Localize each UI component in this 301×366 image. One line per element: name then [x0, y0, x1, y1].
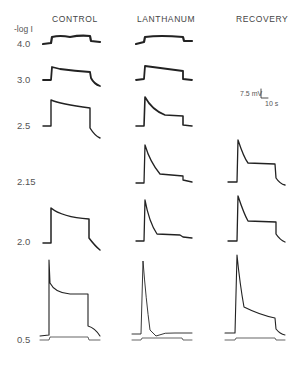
trace-control-0-5 [40, 260, 100, 336]
trace-control-2-5 [43, 100, 100, 138]
stimulus-lanthanum-0-5 [132, 338, 192, 340]
trace-recovery-2-15 [228, 140, 285, 185]
trace-lanthanum-2-15 [136, 145, 192, 183]
trace-lanthanum-2-5 [136, 97, 192, 126]
trace-control-3-0 [43, 67, 100, 86]
stimulus-recovery-0-5 [225, 338, 285, 340]
trace-recovery-2-0 [228, 196, 285, 242]
trace-lanthanum-0-5 [132, 261, 192, 336]
traces-figure [0, 0, 301, 366]
stimulus-control-0-5 [40, 337, 100, 340]
trace-control-4-0 [43, 36, 100, 44]
trace-lanthanum-3-0 [136, 66, 192, 80]
trace-recovery-0-5 [225, 255, 285, 335]
trace-lanthanum-2-0 [136, 200, 192, 241]
trace-control-2-0 [43, 208, 100, 250]
scale-bar [261, 89, 268, 98]
trace-lanthanum-4-0 [136, 36, 192, 44]
